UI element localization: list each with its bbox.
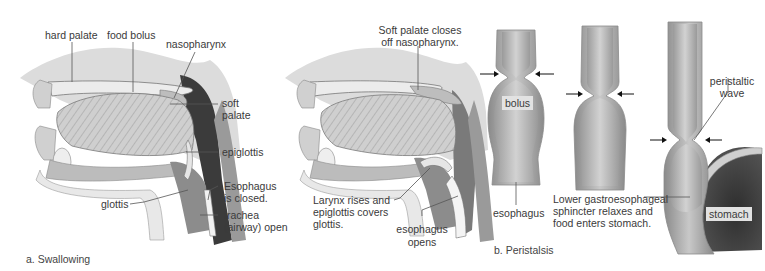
label-soft-palate-closes-line2: off nasopharynx.: [374, 36, 466, 48]
caption-panel-a: a. Swallowing: [26, 253, 90, 265]
constriction-arrow-right-1: [535, 71, 554, 77]
label-nasopharynx: nasopharynx: [166, 38, 226, 50]
label-soft-palate-line1: soft: [222, 97, 239, 109]
label-esophagus-closed-line1: Esophagus: [224, 180, 277, 192]
label-peristaltic-wave-line2: wave: [700, 87, 764, 99]
label-sphincter-line2: sphincter relaxes and: [553, 205, 653, 217]
label-bolus: bolus: [502, 96, 533, 110]
label-sphincter-line3: food enters stomach.: [553, 217, 651, 229]
label-esophagus: esophagus: [493, 207, 544, 219]
label-epiglottis: epiglottis: [222, 146, 263, 158]
constriction-arrow-left-2: [566, 91, 583, 97]
label-trachea-line2: (airway) open: [224, 221, 288, 233]
label-esophagus-opens-line2: opens: [392, 236, 452, 248]
label-stomach: stomach: [706, 207, 752, 221]
label-esophagus-opens-line1: esophagus: [392, 223, 452, 235]
constriction-arrow-right-3: [705, 137, 722, 143]
label-soft-palate-closes-line1: Soft palate closes: [374, 24, 466, 36]
label-larynx-rises-line3: glottis.: [313, 218, 343, 230]
label-hard-palate: hard palate: [45, 29, 98, 41]
label-larynx-rises-line1: Larynx rises and: [313, 194, 390, 206]
label-glottis: glottis: [101, 198, 128, 210]
esophagus-tube-2: [566, 26, 634, 190]
label-trachea-line1: trachea: [224, 209, 259, 221]
constriction-arrow-left-3: [650, 137, 667, 143]
label-larynx-rises-line2: epiglottis covers: [313, 206, 388, 218]
esophagus-tube-1: [480, 30, 554, 205]
label-sphincter-line1: Lower gastroesophageal: [553, 193, 668, 205]
label-peristaltic-wave-line1: peristaltic: [700, 75, 764, 87]
label-esophagus-closed-line2: is closed.: [224, 192, 268, 204]
label-soft-palate-line2: palate: [222, 109, 251, 121]
constriction-arrow-right-2: [617, 91, 634, 97]
caption-panel-b: b. Peristalsis: [494, 244, 554, 256]
label-food-bolus: food bolus: [107, 29, 155, 41]
constriction-arrow-left-1: [480, 71, 499, 77]
